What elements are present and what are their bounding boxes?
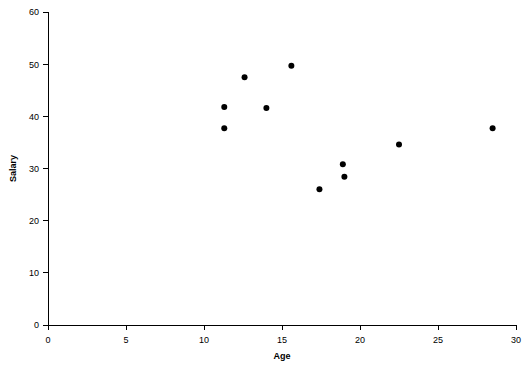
y-axis-ticks: 0102030405060 [29,7,48,330]
y-tick-label: 0 [34,320,39,330]
plot-canvas: 0102030405060 051015202530 Age Salary [0,0,528,378]
data-point [490,125,496,131]
scatter-plot-figure: 0102030405060 051015202530 Age Salary [0,0,528,378]
data-point [221,125,227,131]
x-tick-label: 30 [511,335,521,345]
data-point [316,186,322,192]
data-point [341,174,347,180]
data-point [263,105,269,111]
data-point [340,161,346,167]
y-tick-label: 30 [29,164,39,174]
y-tick-label: 60 [29,7,39,17]
x-tick-label: 20 [355,335,365,345]
data-point [288,63,294,69]
y-tick-label: 10 [29,268,39,278]
x-axis-ticks: 051015202530 [45,325,521,345]
x-tick-label: 15 [277,335,287,345]
data-point [242,74,248,80]
y-tick-label: 20 [29,216,39,226]
data-point [221,104,227,110]
x-tick-label: 0 [45,335,50,345]
data-point [396,142,402,148]
x-axis-title: Age [273,351,290,361]
y-tick-label: 50 [29,60,39,70]
y-tick-label: 40 [29,112,39,122]
data-points-layer [221,63,495,193]
x-tick-label: 25 [433,335,443,345]
y-axis-title: Salary [8,155,18,182]
x-tick-label: 5 [123,335,128,345]
x-tick-label: 10 [199,335,209,345]
axes-group [48,12,516,325]
